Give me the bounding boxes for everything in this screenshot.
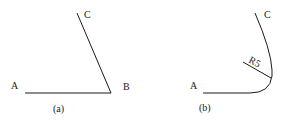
segment-bc (77, 13, 111, 93)
figure-b: R5 A C (b) (190, 9, 272, 114)
caption-a: (a) (53, 103, 64, 115)
filleted-path (203, 13, 272, 93)
figure-a: A B C (a) (11, 9, 130, 115)
point-label-c: C (84, 9, 91, 20)
point-label-a-b: A (190, 80, 198, 91)
point-label-a: A (11, 80, 19, 91)
point-label-b: B (123, 81, 130, 92)
point-label-c-b: C (264, 9, 271, 20)
caption-b: (b) (199, 102, 211, 114)
radius-label: R5 (247, 54, 262, 69)
diagram-canvas: A B C (a) R5 A C (b) (0, 0, 289, 124)
